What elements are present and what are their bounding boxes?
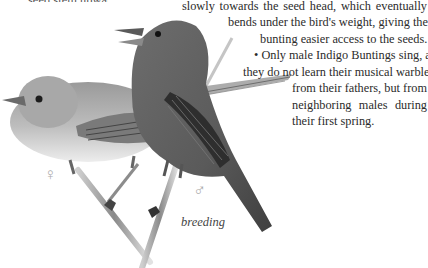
male-symbol-icon: ♂ [193,182,206,199]
body-text-line: bends under the bird's weight, giving th… [228,14,427,30]
body-text-line: they do not learn their musical warble [243,64,427,80]
body-text-line: bunting easier access to the seeds. [260,31,427,47]
body-text-line: • Only male Indigo Buntings sing, and [254,47,427,63]
body-text-line: neighboring males during [292,97,427,113]
body-text-line: their first spring. [292,113,382,129]
twig-branches [78,160,178,268]
field-guide-page: seed stem upwards [0,0,428,268]
body-text-line: slowly towards the seed head, which even… [182,0,427,14]
female-symbol-icon: ♀ [44,166,57,183]
male-bunting [114,20,272,232]
body-text-line: from their fathers, but from [292,80,427,96]
breeding-caption: breeding [181,215,225,230]
